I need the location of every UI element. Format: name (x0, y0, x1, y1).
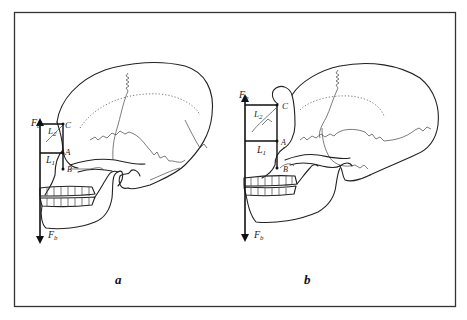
force-bottom-label: Fb (253, 229, 264, 242)
panel-a-caption: a (115, 272, 122, 287)
lever-l2-label: L2 (253, 109, 263, 121)
panel-b-skull (244, 63, 438, 222)
skull-lever-figure: Fb Fb C A B L2 L1 a (0, 0, 467, 320)
force-bottom-label: Fb (47, 229, 58, 242)
panel-a-skull (40, 63, 213, 229)
figure-frame (15, 13, 456, 307)
point-b-label: B (283, 165, 288, 174)
point-a-label: A (64, 147, 71, 157)
lever-l1-label: L1 (256, 144, 266, 157)
point-c-label: C (282, 101, 289, 111)
panel-a-labels: Fb Fb C A B L2 L1 (30, 117, 72, 242)
point-b-label: B (67, 165, 72, 174)
force-top-label: Fb (30, 117, 41, 130)
point-c-label: C (65, 120, 72, 130)
panel-b-caption: b (304, 272, 311, 287)
lever-l1-label: L1 (45, 154, 55, 167)
force-top-label: Fb (238, 89, 249, 102)
point-a-label: A (280, 138, 286, 147)
